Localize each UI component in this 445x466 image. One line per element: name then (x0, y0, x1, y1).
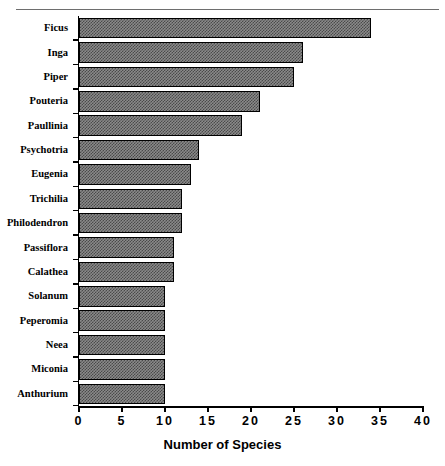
x-axis-tick-mark (164, 406, 166, 412)
y-axis-tick-mark (73, 259, 78, 260)
y-axis-tick-label: Calathea (0, 266, 68, 278)
y-axis-tick-label: Solanum (0, 290, 68, 302)
x-axis-tick-label: 10 (144, 414, 184, 428)
bar (79, 164, 191, 185)
y-axis-tick-label: Psychotria (0, 144, 68, 156)
bar (79, 115, 242, 136)
bar (79, 237, 174, 258)
y-axis-tick-label: Inga (0, 47, 68, 59)
y-axis-tick-mark (73, 381, 78, 382)
bar (79, 384, 165, 405)
x-axis-tick-label: 25 (273, 414, 313, 428)
x-axis-title: Number of Species (0, 437, 445, 452)
x-axis-tick-label: 15 (187, 414, 227, 428)
y-axis-tick-label: Pouteria (0, 95, 68, 107)
bar (79, 91, 260, 112)
x-axis-tick-label: 40 (402, 414, 442, 428)
y-axis-tick-mark (73, 39, 78, 40)
y-axis-tick-mark (73, 88, 78, 89)
y-axis-tick-mark (73, 283, 78, 284)
y-axis-tick-label: Neea (0, 339, 68, 351)
bar (79, 359, 165, 380)
bar (79, 140, 199, 161)
y-axis-tick-label: Peperomia (0, 315, 68, 327)
y-axis-tick-label: Passiflora (0, 242, 68, 254)
y-axis-category-labels: FicusIngaPiperPouteriaPaulliniaPsychotri… (0, 16, 74, 406)
bar (79, 213, 182, 234)
y-axis-tick-mark (73, 308, 78, 309)
y-axis-tick-label: Anthurium (0, 388, 68, 400)
x-axis-tick-label: 20 (230, 414, 270, 428)
y-axis-tick-mark (73, 137, 78, 138)
y-axis-tick-mark (73, 332, 78, 333)
y-axis-tick-mark (73, 234, 78, 235)
x-axis-tick-mark (250, 406, 252, 412)
species-bar-chart-figure: FicusIngaPiperPouteriaPaulliniaPsychotri… (0, 0, 445, 466)
y-axis-tick-mark (73, 210, 78, 211)
y-axis-tick-label: Philodendron (0, 217, 68, 229)
chart-plot-area: FicusIngaPiperPouteriaPaulliniaPsychotri… (0, 0, 445, 466)
y-axis-tick-label: Miconia (0, 363, 68, 375)
figure-caption-ghost-text (38, 458, 418, 466)
x-axis-tick-mark (121, 406, 123, 412)
bar (79, 286, 165, 307)
y-axis-tick-label: Paullinia (0, 120, 68, 132)
y-axis-tick-mark (73, 161, 78, 162)
x-axis-tick-mark (422, 406, 424, 412)
y-axis-tick-label: Ficus (0, 22, 68, 34)
y-axis-tick-mark (73, 356, 78, 357)
x-axis-tick-mark (293, 406, 295, 412)
y-axis-tick-mark (73, 64, 78, 65)
x-axis-tick-mark (336, 406, 338, 412)
bar-series (79, 16, 439, 406)
y-axis-tick-label: Trichilia (0, 193, 68, 205)
bar (79, 18, 371, 39)
x-axis-tick-mark (379, 406, 381, 412)
bar (79, 189, 182, 210)
bar (79, 42, 303, 63)
bar (79, 67, 294, 88)
bar (79, 335, 165, 356)
x-axis-tick-label: 5 (101, 414, 141, 428)
bar (79, 310, 165, 331)
y-axis-tick-label: Piper (0, 71, 68, 83)
y-axis-tick-label: Eugenia (0, 168, 68, 180)
x-axis-tick-label: 30 (316, 414, 356, 428)
x-axis-tick-mark (207, 406, 209, 412)
x-axis-tick-label: 0 (58, 414, 98, 428)
y-axis-tick-mark (73, 113, 78, 114)
x-axis-tick-mark (78, 406, 80, 412)
x-axis-tick-label: 35 (359, 414, 399, 428)
y-axis-tick-mark (73, 186, 78, 187)
bar (79, 262, 174, 283)
